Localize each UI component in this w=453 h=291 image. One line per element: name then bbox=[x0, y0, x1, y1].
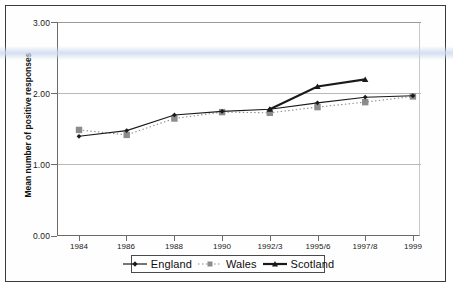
scotland-line-marker-icon bbox=[262, 259, 288, 269]
series-layer bbox=[0, 0, 453, 291]
legend-label-england: England bbox=[151, 258, 192, 270]
data-point bbox=[77, 134, 82, 139]
data-point bbox=[362, 99, 368, 105]
chart-figure: Mean number of positive responses 3.00 2… bbox=[0, 0, 453, 291]
data-point bbox=[76, 127, 82, 133]
legend-label-scotland: Scotland bbox=[291, 258, 335, 270]
legend-item-england[interactable]: England bbox=[122, 258, 192, 270]
legend-item-wales[interactable]: Wales bbox=[197, 258, 257, 270]
legend-item-scotland[interactable]: Scotland bbox=[262, 258, 335, 270]
legend-label-wales: Wales bbox=[226, 258, 257, 270]
chart-legend: England Wales Scotland bbox=[131, 255, 325, 273]
data-point bbox=[363, 95, 368, 100]
wales-line-marker-icon bbox=[197, 259, 223, 269]
england-line-marker-icon bbox=[122, 259, 148, 269]
